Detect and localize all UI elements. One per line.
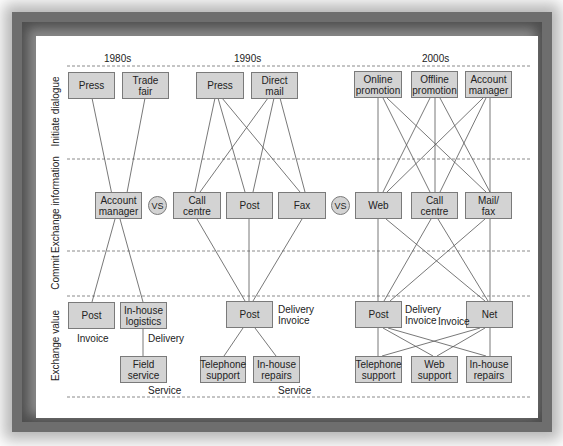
note-1980s-delivery: Delivery — [148, 333, 184, 344]
box-2000s-web-support: Web support — [411, 356, 458, 383]
box-1990s-fax: Fax — [278, 192, 326, 219]
era-1990s: 1990s — [234, 53, 261, 64]
box-1990s-telephone-support: Telephone support — [200, 356, 246, 383]
note-2000s-delivery-invoice: Delivery Invoice — [405, 304, 441, 326]
box-2000s-post: Post — [355, 301, 402, 328]
box-2000s-web: Web — [355, 192, 402, 219]
note-1990s-delivery-invoice: Delivery Invoice — [278, 304, 314, 326]
box-2000s-net: Net — [466, 301, 513, 328]
box-1990s-inhouse-repairs: In-house repairs — [253, 356, 300, 383]
note-2000s-invoice: Invoice — [438, 316, 470, 327]
era-2000s: 2000s — [422, 53, 449, 64]
note-1980s-invoice: Invoice — [77, 333, 109, 344]
box-1990s-press: Press — [196, 72, 244, 99]
box-2000s-telephone-support: Telephone support — [355, 356, 402, 383]
row-dividers — [67, 66, 530, 397]
note-1990s-service: Service — [278, 385, 311, 396]
box-1980s-trade-fair: Trade fair — [122, 72, 169, 99]
box-1990s-call-centre: Call centre — [173, 192, 221, 219]
row-label-exchange-value: Exchange value — [50, 301, 61, 391]
row-label-initiate-dialogue: Initiate dialogue — [50, 67, 61, 157]
vs-badge-1: VS — [148, 196, 167, 215]
box-2000s-offline-promotion: Offline promotion — [411, 71, 458, 98]
vs-badge-2: VS — [331, 196, 350, 215]
era-1980s: 1980s — [104, 53, 131, 64]
box-1980s-post: Post — [68, 302, 115, 329]
box-2000s-mail-fax: Mail/ fax — [465, 192, 512, 219]
box-1980s-account-manager: Account manager — [95, 192, 142, 219]
row-label-commit: Commit — [50, 243, 61, 303]
box-1990s-post-value: Post — [226, 301, 273, 328]
note-1980s-service: Service — [148, 385, 181, 396]
box-2000s-account-manager: Account manager — [465, 71, 512, 98]
box-1990s-post-info: Post — [226, 192, 273, 219]
box-1980s-field-service: Field service — [120, 356, 167, 383]
box-1980s-inhouse-logistics: In-house logistics — [120, 302, 167, 329]
box-2000s-inhouse-repairs: In-house repairs — [466, 356, 512, 383]
box-2000s-call-centre: Call centre — [411, 192, 458, 219]
box-1980s-press: Press — [68, 72, 115, 99]
box-1990s-direct-mail: Direct mail — [251, 72, 298, 99]
box-2000s-online-promotion: Online promotion — [354, 71, 402, 98]
